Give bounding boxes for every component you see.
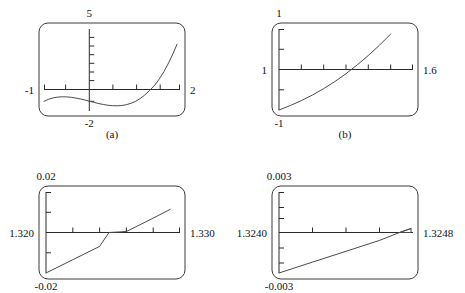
axis-label-left-c: 1.320 — [9, 227, 34, 238]
plot-svg-d — [271, 185, 419, 280]
figure-root: 5 -2 -1 2 (a) — [0, 0, 465, 293]
x-ticks-a — [45, 85, 180, 90]
plot-panel-a: 5 -2 -1 2 (a) — [38, 22, 186, 117]
plot-svg-c — [38, 185, 186, 280]
y-ticks-b — [279, 30, 284, 90]
axis-label-left-d: 1.3240 — [237, 227, 267, 238]
y-ticks-a — [89, 37, 94, 101]
axis-label-right-c: 1.330 — [190, 227, 215, 238]
curve-d — [279, 229, 411, 274]
plot-panel-c: 0.02 -0.02 1.320 1.330 — [38, 185, 186, 280]
plot-frame-c — [38, 185, 186, 280]
plot-svg-b — [271, 22, 419, 117]
axis-label-top-c: 0.02 — [36, 171, 55, 182]
plot-panel-b: 1 -1 1 1.6 (b) — [271, 22, 419, 117]
plot-svg-a — [38, 22, 186, 117]
curve-d-wedge — [400, 229, 412, 233]
curve-a — [44, 44, 177, 106]
panel-border-a — [39, 23, 185, 116]
curve-c — [46, 210, 170, 274]
axis-label-right-a: 2 — [190, 84, 196, 95]
plot-panel-d: 0.003 -0.003 1.3240 1.3248 — [271, 185, 419, 280]
axis-label-top-a: 5 — [87, 8, 93, 19]
panel-caption-a: (a) — [106, 129, 118, 140]
axis-label-bottom-c: -0.02 — [35, 281, 58, 292]
axis-label-left-b: 1 — [262, 64, 268, 75]
axis-label-bottom-d: -0.003 — [265, 281, 293, 292]
curve-b — [279, 34, 391, 110]
panel-caption-b: (b) — [339, 129, 352, 140]
plot-frame-b — [271, 22, 419, 117]
axis-label-bottom-a: -2 — [85, 118, 94, 129]
y-ticks-d — [279, 193, 284, 264]
axis-label-top-b: 1 — [276, 8, 282, 19]
axis-label-right-d: 1.3248 — [423, 227, 453, 238]
y-ticks-c — [46, 193, 51, 253]
x-ticks-d — [313, 228, 380, 233]
plot-frame-a — [38, 22, 186, 117]
axis-label-left-a: -1 — [25, 84, 34, 95]
plot-frame-d — [271, 185, 419, 280]
axis-label-top-d: 0.003 — [267, 171, 292, 182]
axis-label-right-b: 1.6 — [423, 64, 437, 75]
axis-label-bottom-b: -1 — [274, 118, 283, 129]
